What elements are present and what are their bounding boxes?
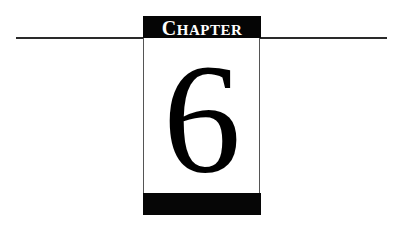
chapter-number: 6 bbox=[143, 44, 261, 194]
chapter-footer-bar bbox=[143, 193, 261, 215]
